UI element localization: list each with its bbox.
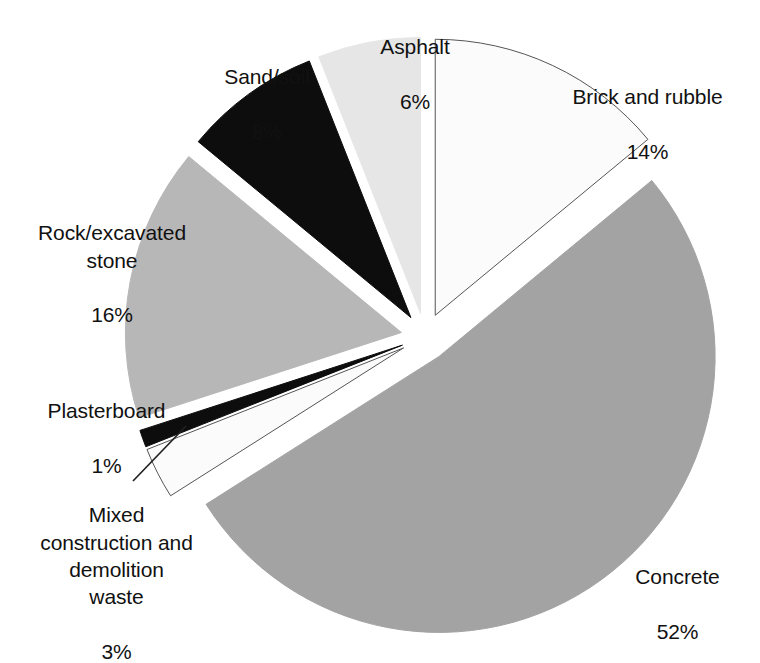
slice-label-plasterboard-name: Plasterboard	[4, 397, 209, 424]
slice-label-mixed-cdw-name: Mixed construction and demolition waste	[4, 501, 229, 610]
slice-label-brick-and-rubble-value: 14%	[540, 138, 755, 165]
slice-label-mixed-cdw-value: 3%	[4, 638, 229, 663]
slice-label-concrete-name: Concrete	[600, 563, 755, 590]
slice-label-rock-excavated-stone-value: 16%	[6, 301, 218, 328]
slice-label-concrete: Concrete 52%	[600, 536, 755, 663]
slice-label-rock-excavated-stone-name: Rock/excavated stone	[6, 219, 218, 274]
slice-label-sand-soil-name: Sand/soil	[172, 63, 362, 90]
slice-label-rock-excavated-stone: Rock/excavated stone 16%	[6, 192, 218, 356]
slice-label-sand-soil: Sand/soil 8%	[172, 36, 362, 172]
slice-label-concrete-value: 52%	[600, 618, 755, 645]
slice-label-mixed-construction-demolition-waste: Mixed construction and demolition waste …	[4, 474, 229, 663]
slice-label-sand-soil-value: 8%	[172, 118, 362, 145]
slice-label-brick-and-rubble-name: Brick and rubble	[540, 83, 755, 110]
slice-label-brick-and-rubble: Brick and rubble 14%	[540, 56, 755, 192]
